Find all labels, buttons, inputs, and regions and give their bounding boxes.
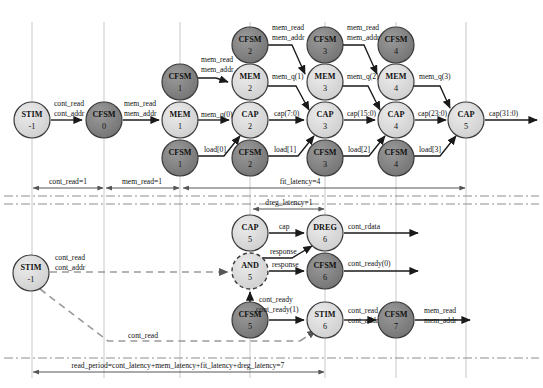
node-cfsm-4-top[interactable]: CFSM 4	[378, 27, 414, 63]
node-cap-3[interactable]: CAP 3	[307, 102, 343, 138]
edge-label-cap: cap	[279, 222, 290, 231]
edge-mem4-cap5	[414, 86, 450, 108]
node-cfsm-3-bottom[interactable]: CFSM 3	[307, 140, 343, 176]
edge-label-mem-q1: mem_q(1)	[272, 72, 304, 81]
node-cap-2[interactable]: CAP 2	[232, 102, 268, 138]
node-index: 4	[394, 84, 398, 93]
node-stim-m1-lower[interactable]: STIM -1	[13, 255, 49, 291]
node-index: 6	[323, 235, 327, 244]
edge-label-cont-ready0: cont_ready(0)	[348, 259, 391, 268]
edge-label-mem-addr-4: mem_addr	[424, 316, 457, 325]
timeline-label-cont-read: cont_read=1	[49, 177, 87, 186]
edge-label-cap-15-0: cap(15:0)	[347, 109, 377, 118]
section-separators	[4, 196, 539, 358]
node-index: 3	[323, 84, 327, 93]
node-stim-m1[interactable]: STIM -1	[14, 102, 50, 138]
edge-label-cont-ready1: cont_ready(1)	[256, 305, 299, 314]
timeline-label-mem-read: mem_read=1	[122, 177, 162, 186]
node-label: CFSM	[384, 310, 407, 319]
pipeline-timing-diagram: STIM -1 CFSM 0 MEM 1 CFSM 1 CFSM 1	[0, 0, 543, 388]
node-label: CAP	[242, 223, 259, 232]
node-index: 3	[323, 47, 327, 56]
node-label: MEM	[170, 110, 191, 119]
node-mem-2[interactable]: MEM 2	[232, 64, 268, 100]
node-label: MEM	[240, 72, 261, 81]
edge-label-mem-read-2: mem_read	[272, 23, 304, 32]
node-label: CFSM	[313, 148, 336, 157]
edge-label-mem-addr-1: mem_addr	[201, 65, 234, 74]
node-index: 1	[178, 84, 182, 93]
timeline-label-dreg-latency: dreg_latency=1	[265, 198, 312, 207]
node-cfsm-4-bottom[interactable]: CFSM 4	[378, 140, 414, 176]
node-label: CFSM	[313, 35, 336, 44]
node-mem-1[interactable]: MEM 1	[162, 102, 198, 138]
edge-cfsm2t-mem3	[268, 45, 305, 74]
node-index: 5	[464, 122, 468, 131]
node-label: STIM	[22, 110, 43, 119]
node-cap-5-top[interactable]: CAP 5	[448, 102, 484, 138]
node-label: CFSM	[168, 72, 191, 81]
node-label: DREG	[313, 223, 337, 232]
node-cap-4[interactable]: CAP 4	[378, 102, 414, 138]
edge-label-load3: load[3]	[419, 145, 441, 154]
edge-label-mem-addr-0: mem_addr	[124, 109, 157, 118]
node-index: 5	[248, 235, 252, 244]
node-label: CFSM	[92, 110, 115, 119]
node-index: 4	[394, 47, 398, 56]
node-mem-3[interactable]: MEM 3	[307, 64, 343, 100]
edge-label-load2: load[2]	[348, 145, 370, 154]
node-cfsm-0[interactable]: CFSM 0	[86, 102, 122, 138]
node-label: CFSM	[238, 35, 261, 44]
node-index: 1	[178, 122, 182, 131]
node-cfsm-1-bottom[interactable]: CFSM 1	[162, 140, 198, 176]
node-index: 4	[394, 122, 398, 131]
node-index: 2	[248, 84, 252, 93]
node-dreg-6[interactable]: DREG 6	[307, 215, 343, 251]
node-index: 4	[394, 160, 398, 169]
node-index: 6	[323, 273, 327, 282]
edge-label-cont-addr-d: cont_addr	[55, 263, 86, 272]
node-cfsm-1-top[interactable]: CFSM 1	[162, 64, 198, 100]
edge-mem2-cap3	[268, 86, 309, 110]
node-label: CFSM	[384, 35, 407, 44]
timeline-label-fit-latency: fit_latency=4	[280, 177, 321, 186]
node-index: 2	[248, 160, 252, 169]
node-cap-5-lower[interactable]: CAP 5	[232, 215, 268, 251]
edge-label-mem-addr-3: mem_addr	[347, 33, 380, 42]
edge-label-cap-7-0: cap(7:0)	[274, 109, 300, 118]
node-index: 6	[323, 322, 327, 331]
node-label: STIM	[315, 310, 336, 319]
node-stim-6[interactable]: STIM 6	[307, 302, 343, 338]
node-index: 5	[248, 322, 252, 331]
edge-label-cont-read-2: cont_read	[348, 306, 378, 315]
diagram-canvas: STIM -1 CFSM 0 MEM 1 CFSM 1 CFSM 1	[0, 0, 543, 388]
edge-label-cont-addr: cont_addr	[54, 109, 85, 118]
edge-label-load1: load[1]	[274, 145, 296, 154]
node-index: 2	[248, 122, 252, 131]
node-label: CFSM	[313, 261, 336, 270]
node-label: MEM	[386, 72, 407, 81]
node-mem-4[interactable]: MEM 4	[378, 64, 414, 100]
edge-label-response-2: response	[272, 260, 299, 269]
edge-label-mem-read-0: mem_read	[124, 99, 156, 108]
edge-label-mem-q3: mem_q(3)	[419, 72, 451, 81]
node-cfsm-3-top[interactable]: CFSM 3	[307, 27, 343, 63]
node-label: MEM	[315, 72, 336, 81]
node-index: 0	[102, 122, 106, 131]
edge-label-cap-23-0: cap(23:0)	[418, 109, 448, 118]
edge-cfsm3t-mem4	[343, 45, 377, 74]
node-cfsm-6[interactable]: CFSM 6	[307, 253, 343, 289]
edge-label-mem-q2: mem_q(2)	[347, 72, 379, 81]
node-and-5[interactable]: AND 5	[232, 253, 268, 289]
edge-label-mem-q0: mem_q(0)	[201, 110, 233, 119]
node-label: CAP	[242, 110, 259, 119]
node-label: AND	[241, 261, 259, 270]
edge-label-cont-read-d2: cont_read	[128, 331, 158, 340]
node-label: CAP	[458, 110, 475, 119]
edge-label-cont-read-d: cont_read	[55, 253, 85, 262]
node-index: 3	[323, 160, 327, 169]
node-label: CFSM	[238, 148, 261, 157]
node-cfsm-2-top[interactable]: CFSM 2	[232, 27, 268, 63]
node-cfsm-2-bottom[interactable]: CFSM 2	[232, 140, 268, 176]
node-cfsm-7[interactable]: CFSM 7	[378, 302, 414, 338]
